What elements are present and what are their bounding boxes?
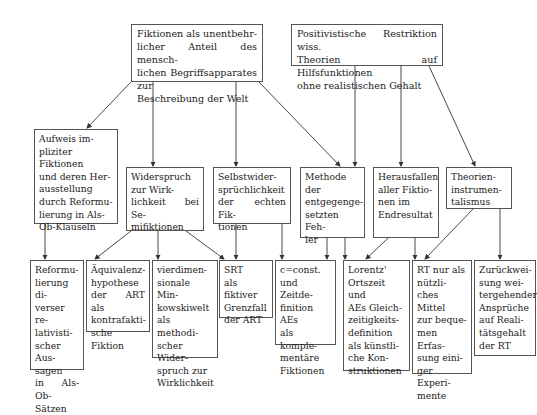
node-aequivalenz: Äquivalenz- hypothese der ART als kontra…	[86, 260, 150, 332]
node-aufweis: Aufweis im- pliziter Fiktionen und deren…	[34, 129, 118, 224]
node-text: Lorentz' Ortszeit und AEs Gleich- zeitig…	[348, 264, 405, 377]
node-text: Methode der entgegenge- setzten Feh- ler	[305, 171, 360, 247]
node-herausfallen: Herausfallen aller Fiktio- nen im Endres…	[373, 167, 439, 238]
node-text: Äquivalenz- hypothese der ART als kontra…	[91, 264, 145, 352]
node-text: Widerspruch zur Wirk- lichkeit bei Se- m…	[131, 171, 199, 234]
node-positivistische: Positivistische Restriktion wiss. Theori…	[291, 24, 443, 66]
node-text: vierdimen- sionale Min- kowskiwelt als m…	[157, 264, 213, 390]
edge-widerspruch-aequivalenz	[95, 231, 131, 259]
node-cconst: c=const. und Zeitde- finition AEs als ko…	[275, 260, 336, 345]
node-zurueck: Zurückwei- sung wei- tergehender Ansprüc…	[474, 260, 536, 356]
node-reformulierung: Reformu- lierung di- verser re- lativist…	[30, 260, 84, 370]
node-text: Fiktionen als unentbehr- licher Anteil d…	[137, 28, 257, 105]
node-text: Selbstwider- sprüchlichkeit der echten F…	[218, 171, 286, 234]
node-rt: RT nur als nützli- ches Mittel zur beque…	[412, 260, 472, 374]
node-widerspruch: Widerspruch zur Wirk- lichkeit bei Se- m…	[126, 167, 204, 231]
node-text: Reformu- lierung di- verser re- lativist…	[35, 264, 79, 415]
node-fiktionen: Fiktionen als unentbehr- licher Anteil d…	[131, 24, 263, 82]
node-srt: SRT als fiktiver Grenzfall der ART	[219, 260, 273, 318]
node-text: Aufweis im- pliziter Fiktionen und deren…	[39, 133, 113, 234]
node-text: Positivistische Restriktion wiss. Theori…	[297, 28, 437, 93]
node-text: Zurückwei- sung wei- tergehender Ansprüc…	[479, 264, 531, 352]
edge-fiktionen-methode	[259, 82, 340, 166]
node-methode: Methode der entgegenge- setzten Feh- ler	[300, 167, 365, 238]
edge-fiktionen-aufweis	[87, 82, 131, 128]
node-text: c=const. und Zeitde- finition AEs als ko…	[280, 264, 331, 377]
node-text: RT nur als nützli- ches Mittel zur beque…	[417, 264, 467, 403]
node-text: Herausfallen aller Fiktio- nen im Endres…	[378, 171, 434, 221]
edge-widerspruch-srt	[186, 231, 224, 259]
node-text: SRT als fiktiver Grenzfall der ART	[224, 264, 268, 327]
node-vierdim: vierdimen- sionale Min- kowskiwelt als m…	[152, 260, 218, 358]
node-theorien: Theorien- instrumen- talismus	[446, 167, 512, 209]
node-lorentz: Lorentz' Ortszeit und AEs Gleich- zeitig…	[343, 260, 410, 371]
node-text: Theorien- instrumen- talismus	[451, 171, 507, 209]
node-selbstwider: Selbstwider- sprüchlichkeit der echten F…	[213, 167, 291, 224]
